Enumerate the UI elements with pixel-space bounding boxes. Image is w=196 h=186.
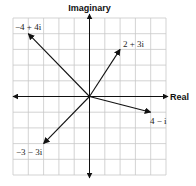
imaginary-axis-label: Imaginary xyxy=(68,3,111,13)
complex-plane-diagram: Imaginary Real −4 + 4i 2 + 3i 4 − i −3 −… xyxy=(0,0,196,186)
label-neg3-minus-3i: −3 − 3i xyxy=(16,147,43,157)
real-axis-label: Real xyxy=(170,92,189,102)
label-2-plus-3i: 2 + 3i xyxy=(123,39,145,49)
vector-neg3-minus-3i xyxy=(44,97,90,144)
label-4-minus-i: 4 − i xyxy=(150,116,167,126)
label-neg4-plus-4i: −4 + 4i xyxy=(15,22,42,32)
